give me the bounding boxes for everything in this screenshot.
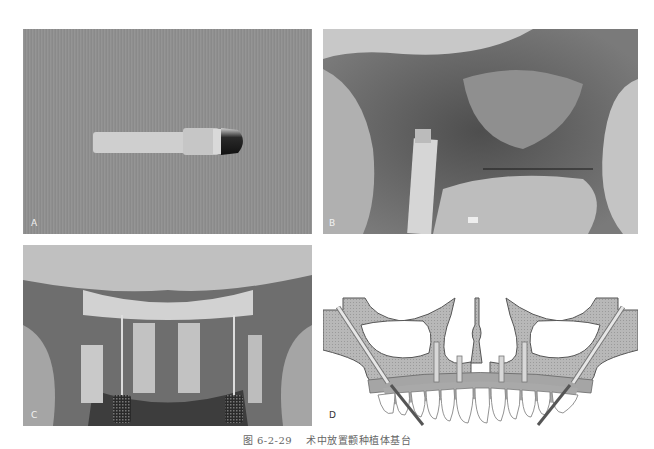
figure-caption: 图 6-2-29术中放置颧种植体基台 [0,432,654,447]
panel-b-photo: B [323,29,638,234]
panel-label-c: C [31,411,37,420]
figure-number: 图 6-2-29 [243,435,292,446]
panel-label-b: B [329,219,335,228]
surgical-site-photo [323,29,638,234]
panel-d-diagram: D [323,245,638,426]
panel-label-a: A [31,219,37,228]
panel-label-d: D [329,411,336,420]
figure-title: 术中放置颧种植体基台 [306,435,411,446]
maxilla-implants-photo [23,245,312,426]
zygomatic-implant-schematic [323,245,638,426]
implant-carrier-photo [23,29,312,234]
panel-a-photo: A [23,29,312,234]
panel-c-photo: C [23,245,312,426]
